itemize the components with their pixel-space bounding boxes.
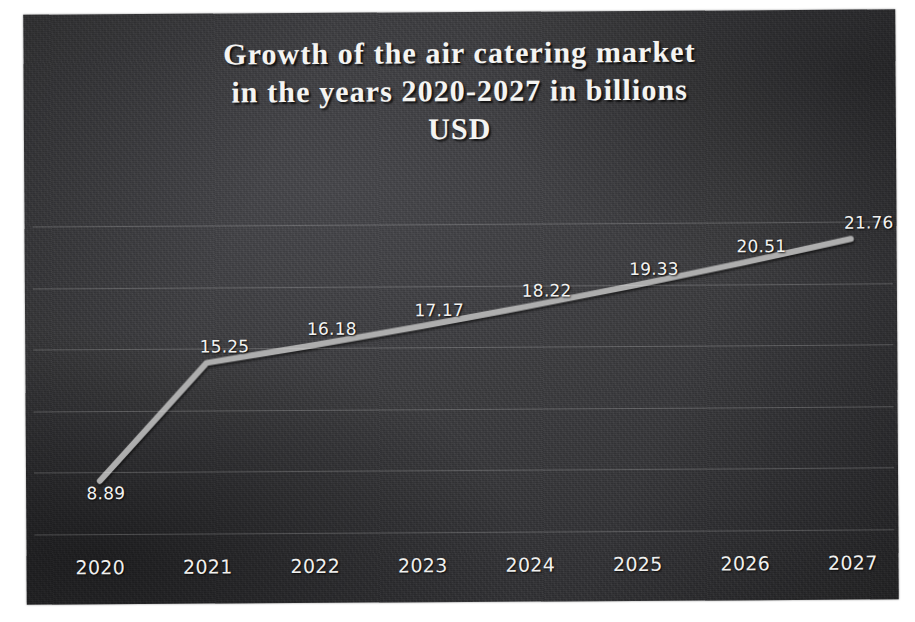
data-point-label: 18.22: [522, 280, 572, 300]
data-point-label: 16.18: [307, 319, 357, 339]
x-axis-tick-label: 2022: [290, 555, 340, 577]
series-line-path: [98, 239, 852, 481]
data-point-label: 21.76: [844, 213, 894, 233]
data-point-label: 15.25: [200, 337, 250, 357]
data-point-label: 20.51: [736, 236, 786, 256]
chart-title-line-2: in the years 2020-2027 in billions: [84, 70, 836, 113]
chart-panel: Growth of the air catering market in the…: [23, 9, 899, 604]
x-axis-tick-label: 2024: [505, 553, 555, 575]
chart-title-line-1: Growth of the air catering market: [83, 32, 835, 75]
x-axis-tick-label: 2021: [183, 555, 233, 577]
plot-area: 8.8915.2516.1817.1718.2219.3320.5121.76: [32, 197, 894, 534]
x-axis-tick-label: 2027: [828, 551, 878, 573]
x-axis-tick-labels: 20202021202220232024202520262027: [35, 551, 895, 594]
data-point-label: 17.17: [414, 300, 464, 320]
x-axis-tick-label: 2020: [75, 556, 125, 578]
data-point-label: 8.89: [86, 483, 125, 503]
x-axis-tick-label: 2025: [613, 553, 663, 575]
data-point-label: 19.33: [629, 259, 679, 279]
chart-inner: Growth of the air catering market in the…: [23, 9, 899, 604]
chart-screenshot: Growth of the air catering market in the…: [0, 0, 915, 622]
x-axis-tick-label: 2026: [720, 552, 770, 574]
chart-title: Growth of the air catering market in the…: [23, 31, 896, 150]
x-axis-tick-label: 2023: [398, 554, 448, 576]
chart-title-line-3: USD: [84, 108, 836, 151]
